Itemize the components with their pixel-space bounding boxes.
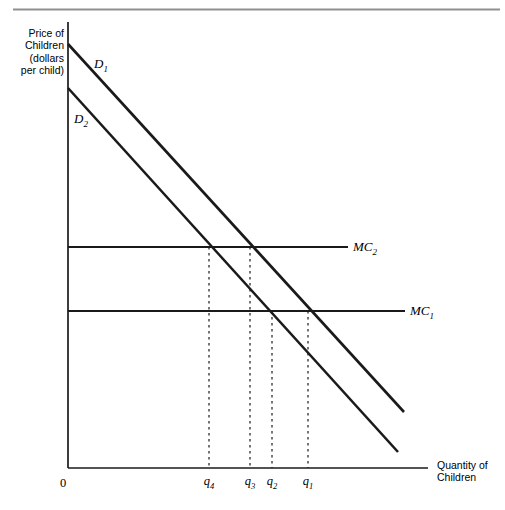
d2-curve-label-text: D: [74, 111, 83, 126]
mc2-curve-label: MC2: [353, 239, 377, 257]
x-axis-title-line-1: Quantity of: [437, 459, 488, 471]
tick-label-q1: q1: [295, 474, 321, 491]
mc2-curve-label-text: MC: [353, 239, 373, 254]
origin-label: 0: [60, 476, 66, 491]
mc1-curve-label-text: MC: [410, 303, 430, 318]
tick-label-q2: q2: [259, 474, 285, 491]
d2-curve-label: D2: [74, 111, 88, 129]
d1-curve: [68, 44, 404, 412]
economics-diagram-figure: Price of Children (dollars per child) Qu…: [0, 0, 505, 510]
d2-curve: [68, 88, 398, 452]
x-axis-title-line-2: Children: [437, 471, 488, 483]
mc2-curve-label-sub: 2: [373, 247, 378, 257]
d1-curve-label-text: D: [94, 56, 103, 71]
d1-curve-label-sub: 1: [103, 64, 108, 74]
d1-curve-label: D1: [94, 56, 108, 74]
y-axis-title-line-4: per child): [0, 64, 64, 76]
x-axis-title: Quantity of Children: [437, 459, 488, 484]
tick-label-q1-sub: 1: [309, 481, 313, 491]
tick-label-q4-sub: 4: [210, 481, 214, 491]
mc1-curve-label: MC1: [410, 303, 434, 321]
d2-curve-label-sub: 2: [83, 119, 88, 129]
y-axis-title: Price of Children (dollars per child): [0, 27, 64, 77]
tick-label-q2-sub: 2: [273, 481, 277, 491]
mc1-curve-label-sub: 1: [430, 311, 435, 321]
tick-label-q4: q4: [196, 474, 222, 491]
tick-label-q3-sub: 3: [251, 481, 255, 491]
diagram-canvas: [0, 0, 505, 510]
y-axis-title-line-2: Children: [0, 39, 64, 51]
y-axis-title-line-1: Price of: [0, 27, 64, 39]
y-axis-title-line-3: (dollars: [0, 52, 64, 64]
